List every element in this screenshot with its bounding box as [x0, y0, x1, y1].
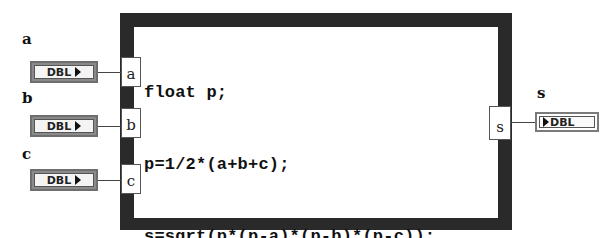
control-c[interactable]: DBL [30, 169, 98, 191]
wire-s[interactable] [511, 122, 536, 123]
control-a[interactable]: DBL [30, 61, 98, 83]
code-line: float p; [144, 81, 435, 105]
control-label-c: c [22, 145, 31, 163]
type-label: DBL [47, 120, 72, 133]
formula-code[interactable]: float p; p=1/2*(a+b+c); s=sqrt(p*(p-a)*(… [144, 33, 435, 238]
output-arrow-icon [75, 121, 81, 131]
indicator-label-s: s [537, 84, 545, 102]
code-line: s=sqrt(p*(p-a)*(p-b)*(p-c)); [144, 225, 435, 238]
output-terminal-s[interactable]: s [489, 106, 511, 140]
wire-c[interactable] [98, 180, 121, 181]
input-terminal-b[interactable]: b [121, 108, 141, 138]
type-label: DBL [47, 66, 72, 79]
control-label-a: a [22, 30, 32, 48]
input-terminal-a[interactable]: a [121, 57, 141, 87]
wire-b[interactable] [98, 126, 121, 127]
input-terminal-c[interactable]: c [121, 164, 141, 194]
indicator-s[interactable]: DBL [535, 112, 599, 132]
output-arrow-icon [75, 175, 81, 185]
type-label: DBL [47, 174, 72, 187]
output-arrow-icon [75, 67, 81, 77]
control-b[interactable]: DBL [30, 115, 98, 137]
type-label: DBL [550, 116, 575, 129]
control-label-b: b [22, 89, 33, 107]
code-line: p=1/2*(a+b+c); [144, 153, 435, 177]
input-arrow-icon [543, 117, 549, 127]
wire-a[interactable] [98, 72, 121, 73]
